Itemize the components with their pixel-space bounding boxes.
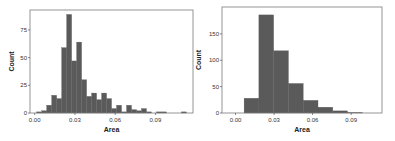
y-tick-label: 100 — [209, 57, 220, 63]
histogram-bar — [47, 105, 52, 113]
histogram-bar — [82, 80, 87, 113]
x-tick-label: 0.00 — [29, 117, 41, 123]
y-axis-title: Count — [8, 51, 15, 72]
histogram-bar — [62, 48, 67, 113]
histogram-bar — [127, 105, 132, 113]
y-tick-label: 150 — [209, 31, 220, 37]
x-tick-label: 0.03 — [69, 117, 81, 123]
x-tick-label: 0.09 — [345, 117, 357, 123]
x-axis-title: Area — [294, 126, 310, 133]
histogram-figure: 0.000.030.060.090255075AreaCount 0.000.0… — [0, 0, 395, 141]
histogram-bar — [288, 83, 303, 113]
histogram-bar — [57, 99, 62, 113]
x-tick-label: 0.09 — [150, 117, 162, 123]
histogram-bar — [132, 110, 137, 113]
x-tick-label: 0.00 — [230, 117, 242, 123]
histogram-bar — [259, 15, 274, 113]
y-tick-label: 25 — [20, 82, 27, 88]
y-tick-label: 50 — [20, 55, 27, 61]
y-tick-label: 0 — [24, 110, 28, 116]
histogram-bar — [112, 109, 117, 113]
y-tick-label: 50 — [212, 84, 219, 90]
histogram-bar — [72, 61, 77, 113]
histogram-bar — [77, 42, 82, 113]
y-tick-label: 0 — [216, 110, 220, 116]
x-tick-label: 0.06 — [109, 117, 121, 123]
histogram-bar — [87, 96, 92, 113]
left-histogram: 0.000.030.060.090255075AreaCount — [8, 10, 193, 133]
right-histogram: 0.000.030.060.09050100150AreaCount — [195, 7, 382, 133]
histogram-bar — [67, 14, 72, 113]
x-tick-label: 0.03 — [268, 117, 280, 123]
x-tick-label: 0.06 — [307, 117, 319, 123]
histogram-bar — [318, 107, 333, 113]
histogram-bar — [102, 93, 107, 113]
histogram-bar — [303, 100, 318, 113]
y-tick-label: 75 — [20, 27, 27, 33]
y-axis-title: Count — [195, 49, 202, 70]
histogram-bar — [107, 99, 112, 113]
histogram-bar — [244, 98, 259, 113]
histogram-bar — [52, 95, 57, 113]
histogram-bar — [142, 109, 147, 113]
histogram-bar — [274, 51, 289, 113]
x-axis-title: Area — [104, 126, 120, 133]
histogram-bar — [117, 105, 122, 113]
histogram-bar — [97, 100, 102, 113]
histogram-bar — [92, 93, 97, 113]
